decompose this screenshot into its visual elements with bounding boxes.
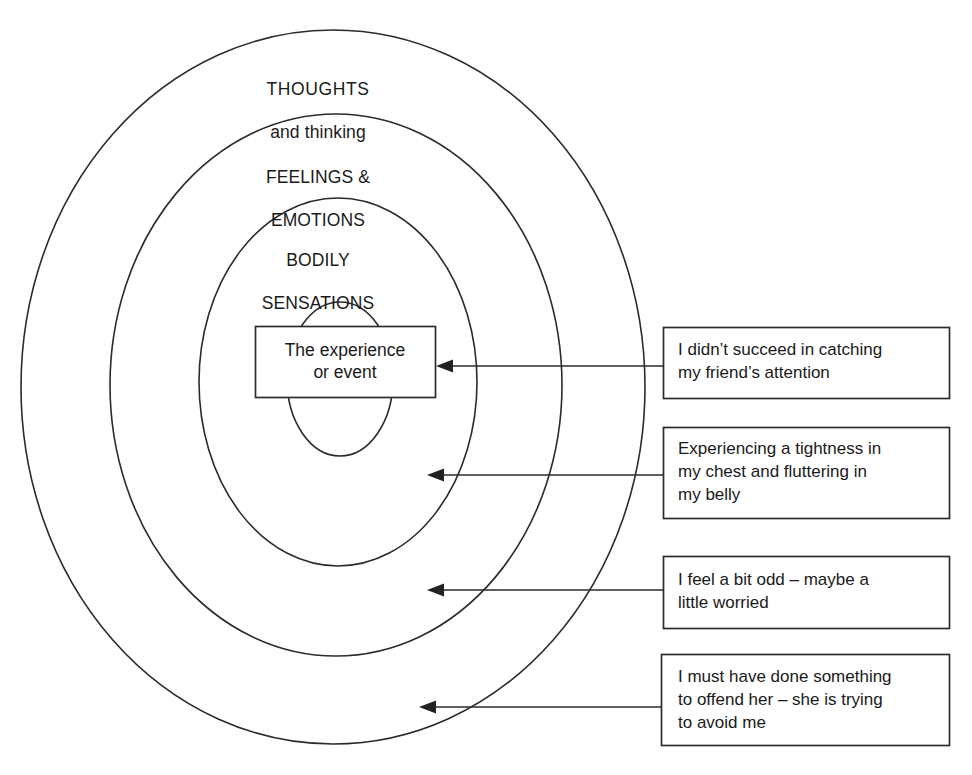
arrow-head-bodily xyxy=(427,469,444,482)
concentric-rings-svg xyxy=(0,0,972,775)
arrow-head-event xyxy=(436,360,453,373)
diagram-canvas: THOUGHTS and thinking FEELINGS & EMOTION… xyxy=(0,0,972,775)
center-event-box xyxy=(256,327,436,398)
arrow-head-thoughts xyxy=(419,701,436,714)
callout-box-event xyxy=(664,328,950,399)
arrow-head-feelings xyxy=(427,584,444,597)
callout-box-thoughts xyxy=(662,655,950,746)
callout-box-feelings xyxy=(664,557,950,629)
callout-box-bodily xyxy=(664,428,950,519)
